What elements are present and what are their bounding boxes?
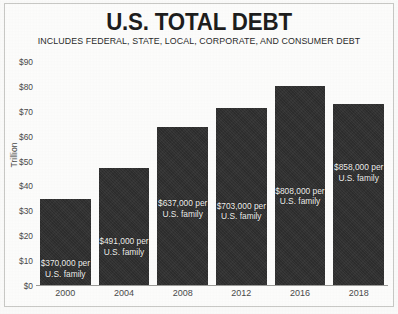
bar-value-label: $703,000 per U.S. family [216, 201, 266, 222]
y-axis-tick-label: $30 [3, 206, 33, 216]
y-axis-tick-label: $70 [3, 107, 33, 117]
bar-value-label: $858,000 per U.S. family [333, 162, 383, 183]
y-axis-tick-label: $80 [3, 82, 33, 92]
x-axis-tick-label: 2016 [290, 288, 310, 298]
y-axis-tick-label: $0 [3, 281, 33, 291]
x-axis-tick-label: 2018 [349, 288, 369, 298]
x-axis-tick-label: 2004 [114, 288, 134, 298]
x-axis-tick-label: 2012 [231, 288, 251, 298]
x-axis-tick-label: 2008 [173, 288, 193, 298]
bar-value-label: $637,000 per U.S. family [157, 198, 207, 219]
x-axis-tick-label: 2000 [55, 288, 75, 298]
x-axis-ticks: 200020042008201220162018 [36, 288, 388, 304]
y-axis-tick-label: $20 [3, 231, 33, 241]
chart-subtitle: INCLUDES FEDERAL, STATE, LOCAL, CORPORAT… [8, 36, 390, 46]
bar-2018: $858,000 per U.S. family [333, 104, 383, 286]
chart-page: U.S. TOTAL DEBT INCLUDES FEDERAL, STATE,… [0, 0, 398, 314]
y-axis-tick-label: $90 [3, 57, 33, 67]
bar-2008: $637,000 per U.S. family [157, 127, 207, 286]
bar-2016: $808,000 per U.S. family [275, 86, 325, 286]
bar-2004: $491,000 per U.S. family [99, 168, 149, 286]
bar-value-label: $491,000 per U.S. family [99, 236, 149, 257]
plot-area: $370,000 per U.S. family$491,000 per U.S… [36, 62, 388, 286]
chart-title: U.S. TOTAL DEBT [14, 8, 384, 36]
bar-2012: $703,000 per U.S. family [216, 108, 266, 286]
y-axis-label: Trillion [9, 125, 19, 185]
bar-2000: $370,000 per U.S. family [40, 199, 90, 286]
bar-value-label: $370,000 per U.S. family [40, 258, 90, 279]
y-axis-tick-label: $10 [3, 256, 33, 266]
x-axis-baseline [36, 285, 388, 286]
bar-value-label: $808,000 per U.S. family [275, 186, 325, 207]
